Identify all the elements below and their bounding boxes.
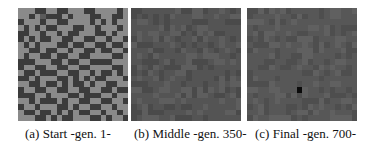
caption-final: (c) Final -gen. 700- (255, 126, 356, 142)
grid-panel-middle (131, 8, 241, 121)
grid-panel-final (247, 8, 357, 121)
evolution-figure: (a) Start -gen. 1- (b) Middle -gen. 350-… (0, 0, 373, 146)
grid-panel-start (18, 8, 128, 121)
caption-start: (a) Start -gen. 1- (25, 126, 111, 142)
grid-cell (352, 115, 358, 121)
grid-cell (236, 115, 242, 121)
caption-middle: (b) Middle -gen. 350- (134, 126, 247, 142)
grid-cell (123, 115, 129, 121)
